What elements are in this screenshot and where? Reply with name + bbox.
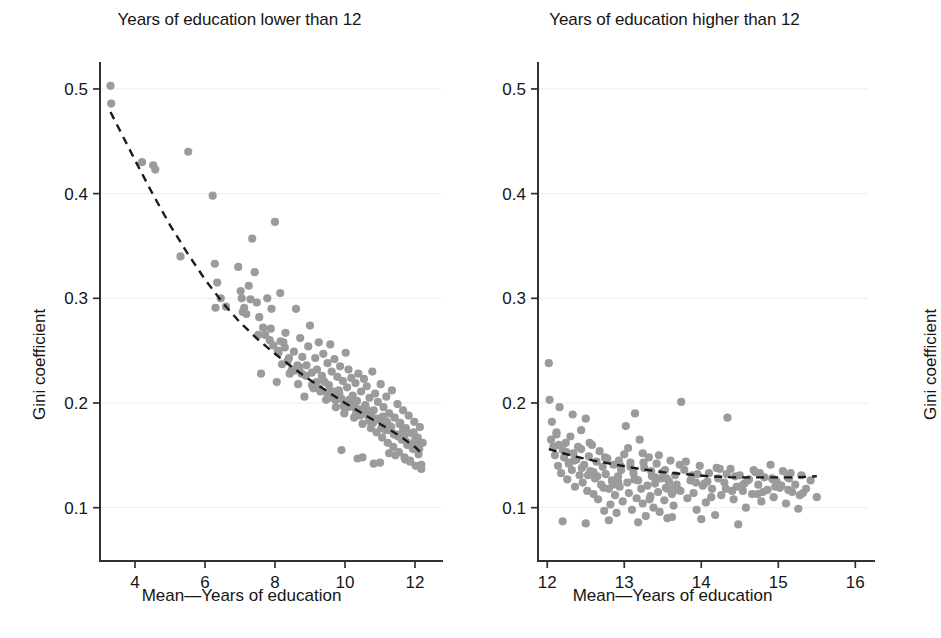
data-point [656,508,664,516]
y-axis-label-right: Gini coefficient [921,309,941,420]
x-axis-label-left: Mean—Years of education [0,586,463,606]
y-tick-label-0: 0.1 [502,499,526,518]
data-point [669,501,677,509]
data-point [653,460,661,468]
data-point [756,469,764,477]
data-point [639,459,647,467]
data-point [337,446,345,454]
data-point [306,321,314,329]
data-point [577,445,585,453]
data-point [545,359,553,367]
data-point [292,305,300,313]
data-point [298,353,306,361]
data-point [577,426,585,434]
data-point [734,520,742,528]
data-point [354,454,362,462]
data-point [184,148,192,156]
data-point [370,460,378,468]
data-point [238,294,246,302]
data-point [677,398,685,406]
data-point [584,471,592,479]
data-point [343,383,351,391]
data-point [730,495,738,503]
data-point [599,484,607,492]
data-point [708,485,716,493]
data-point [545,396,553,404]
data-point [631,409,639,417]
data-point [554,462,562,470]
data-point [296,334,304,342]
data-point [663,485,671,493]
data-point [666,456,674,464]
data-point [563,475,571,483]
chart-panel-right: Years of education higher than 12 0.10.2… [443,0,886,638]
data-point [360,375,368,383]
data-point [634,518,642,526]
data-point [605,516,613,524]
data-point [555,441,563,449]
data-point [234,263,242,271]
data-point [782,499,790,507]
data-point [676,461,684,469]
data-point [757,497,765,505]
data-point [692,478,700,486]
data-point [351,379,359,387]
data-point [622,422,630,430]
y-tick-label-1: 0.2 [64,394,88,413]
data-point [211,304,219,312]
scatter-plot-right: 0.10.20.30.40.51213141516 [443,0,886,638]
data-point [693,506,701,514]
data-point [267,325,275,333]
data-point [371,389,379,397]
data-point [716,465,724,473]
data-point [251,268,259,276]
data-points [106,82,426,473]
data-point [245,282,253,290]
data-point [575,471,583,479]
data-point [611,491,619,499]
data-point [742,504,750,512]
data-point [107,99,115,107]
data-point [379,403,387,411]
data-point [263,294,271,302]
data-point [600,507,608,515]
data-point [754,481,762,489]
data-point [281,329,289,337]
data-point [239,308,247,316]
data-point [393,400,401,408]
data-point [655,451,663,459]
y-tick-label-0: 0.1 [64,499,88,518]
data-point [253,298,261,306]
data-point [636,436,644,444]
data-point [399,425,407,433]
data-point [606,500,614,508]
y-tick-label-2: 0.3 [64,289,88,308]
data-point [571,483,579,491]
data-point [651,473,659,481]
data-point [294,380,302,388]
data-point [332,403,340,411]
data-point [569,410,577,418]
y-tick-label-4: 0.5 [502,80,526,99]
data-point [728,487,736,495]
data-point [277,337,285,345]
data-point [414,433,422,441]
data-point [723,414,731,422]
data-point [552,430,560,438]
data-point [625,489,633,497]
data-point [548,418,556,426]
data-point [586,439,594,447]
data-point [551,451,559,459]
data-point [566,432,574,440]
data-point [385,449,393,457]
data-point [330,355,338,363]
y-tick-label-1: 0.2 [502,394,526,413]
data-point [770,493,778,501]
data-point [382,393,390,401]
data-point [624,444,632,452]
data-points [545,359,821,528]
data-point [594,495,602,503]
data-point [319,350,327,358]
data-point [639,449,647,457]
